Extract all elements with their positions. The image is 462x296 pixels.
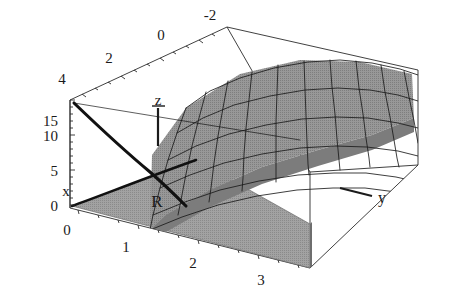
y-axis-label: y xyxy=(378,189,386,207)
z-tick-label-1: 5 xyxy=(51,163,59,179)
plot-canvas: 4 2 0 -2 0 1 2 3 0 5 10 15 x y z R xyxy=(0,0,462,296)
region-label-R: R xyxy=(151,192,163,211)
z-tick-label-0: 0 xyxy=(51,198,59,214)
x-axis-line xyxy=(70,27,227,100)
y-axis-pointer xyxy=(340,188,372,196)
x-tick-label-1: 2 xyxy=(105,50,113,66)
z-tick-label-3: 15 xyxy=(43,113,58,129)
z-axis-ticks xyxy=(70,100,75,205)
y-tick-label-2: 2 xyxy=(189,255,197,271)
x-tick-label-0: 4 xyxy=(58,71,66,87)
surface-plot-figure: 4 2 0 -2 0 1 2 3 0 5 10 15 x y z R xyxy=(0,0,462,296)
x-tick-label-3: -2 xyxy=(204,7,217,23)
y-tick-label-1: 1 xyxy=(122,239,130,255)
y-tick-label-3: 3 xyxy=(257,272,265,288)
z-tick-label-2: 10 xyxy=(43,128,58,144)
x-axis-label: x xyxy=(62,183,70,199)
x-axis-ticks xyxy=(82,34,215,97)
y-tick-label-0: 0 xyxy=(63,222,71,238)
z-axis-label: z xyxy=(155,92,162,108)
x-tick-label-2: 0 xyxy=(157,27,165,43)
